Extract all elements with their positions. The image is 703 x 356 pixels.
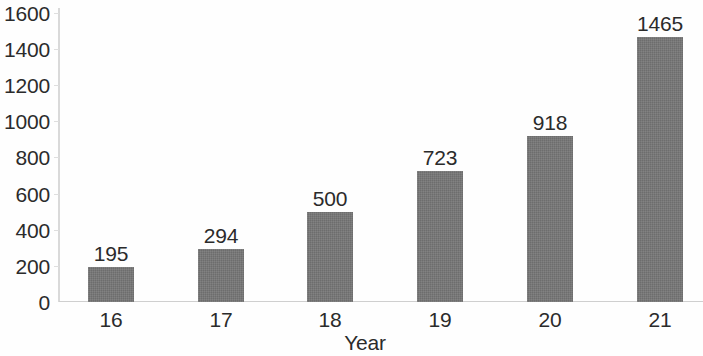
y-axis-tick-label: 800 [2, 147, 50, 168]
bar-chart: 1600 1400 1200 1000 800 600 400 200 0 19… [0, 0, 703, 356]
y-axis-tick-label: 0 [2, 292, 50, 313]
bar-value-label: 500 [313, 188, 347, 209]
y-axis-tick-label: 1000 [2, 111, 50, 132]
plot-area [59, 13, 703, 302]
x-axis-category-label: 20 [539, 309, 562, 330]
x-axis-category-label: 19 [429, 309, 452, 330]
bar [417, 171, 463, 302]
y-axis-tick-label: 600 [2, 184, 50, 205]
bar-value-label: 294 [204, 225, 238, 246]
bar-value-label: 723 [423, 147, 457, 168]
bar-value-label: 195 [94, 243, 128, 264]
x-axis-category-label: 17 [210, 309, 233, 330]
bar [88, 267, 134, 302]
bar-value-label: 1465 [637, 13, 683, 34]
x-axis-title: Year [344, 332, 386, 353]
x-axis-category-label: 21 [649, 309, 672, 330]
y-axis-tick-label: 200 [2, 256, 50, 277]
bar-value-label: 918 [533, 112, 567, 133]
bar [198, 249, 244, 302]
y-axis-tick-label: 1600 [2, 3, 50, 24]
bar [637, 37, 683, 302]
y-axis-tick-label: 400 [2, 220, 50, 241]
bar [307, 212, 353, 302]
x-axis-category-label: 18 [319, 309, 342, 330]
y-axis-tick-label: 1200 [2, 75, 50, 96]
y-axis-tick-label: 1400 [2, 39, 50, 60]
bar [527, 136, 573, 302]
x-axis-category-label: 16 [100, 309, 123, 330]
y-axis-tick-labels: 1600 1400 1200 1000 800 600 400 200 0 [0, 0, 50, 356]
